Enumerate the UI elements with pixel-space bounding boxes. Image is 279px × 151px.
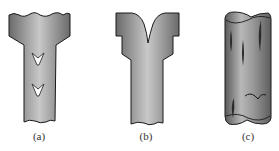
panel-label-b: (b) — [131, 130, 161, 142]
panel-b-shank — [116, 13, 179, 125]
panel-label-c: (c) — [233, 130, 263, 142]
figure-canvas — [0, 0, 279, 151]
panel-c-cylinder — [225, 12, 271, 125]
panel-a-shank — [9, 13, 70, 123]
panel-label-a: (a) — [24, 130, 54, 142]
